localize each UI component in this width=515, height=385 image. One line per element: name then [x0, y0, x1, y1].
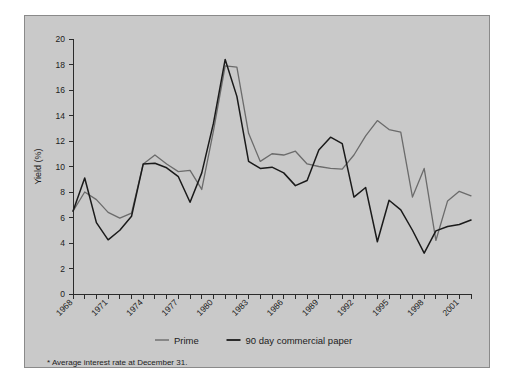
x-tick-label: 1998 — [405, 297, 426, 318]
figure-root: 02468101214161820 1968197119741977198019… — [0, 0, 515, 385]
y-tick-label: 18 — [56, 60, 66, 70]
x-tick-label: 1977 — [159, 297, 180, 318]
y-tick-label: 6 — [60, 213, 65, 223]
y-tick-label: 2 — [60, 264, 65, 274]
x-tick-label: 1992 — [335, 297, 356, 318]
x-tick-label: 1974 — [124, 297, 145, 318]
x-tick-label: 1980 — [194, 297, 215, 318]
y-tick-label: 14 — [56, 111, 66, 121]
x-axis: 1968197119741977198019831986198919921995… — [54, 294, 471, 318]
x-tick-label: 1989 — [300, 297, 321, 318]
y-axis-title: Yield (%) — [33, 148, 43, 184]
footnote: * Average interest rate at December 31. — [47, 358, 187, 367]
x-tick-label: 1986 — [265, 297, 286, 318]
x-tick-label: 1968 — [54, 297, 75, 318]
y-tick-label: 8 — [60, 187, 65, 197]
legend-label-commercial-paper: 90 day commercial paper — [246, 335, 353, 346]
x-tick-label: 1971 — [89, 297, 110, 318]
y-axis-title-text: Yield (%) — [33, 148, 43, 184]
series-line-commercial-paper — [73, 59, 471, 253]
footnote-text: * Average interest rate at December 31. — [47, 358, 187, 367]
y-tick-label: 12 — [56, 136, 66, 146]
series-lines — [73, 59, 471, 253]
y-tick-label: 16 — [56, 85, 66, 95]
x-tick-label: 1995 — [370, 297, 391, 318]
chart-panel: 02468101214161820 1968197119741977198019… — [24, 15, 490, 368]
y-tick-label: 20 — [56, 34, 66, 44]
y-tick-label: 4 — [60, 238, 65, 248]
x-tick-label: 1983 — [230, 297, 251, 318]
x-tick-label: 2001 — [440, 297, 461, 318]
y-axis: 02468101214161820 — [56, 34, 73, 299]
chart-legend: Prime90 day commercial paper — [155, 335, 352, 346]
y-tick-label: 0 — [60, 289, 65, 299]
y-tick-label: 10 — [56, 162, 66, 172]
line-chart: 02468101214161820 1968197119741977198019… — [25, 16, 489, 367]
legend-label-prime: Prime — [174, 335, 199, 346]
